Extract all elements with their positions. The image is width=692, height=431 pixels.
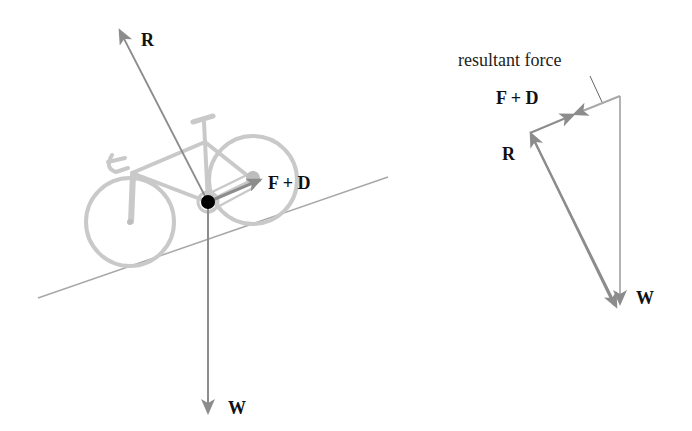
resultant-force-label: resultant force: [458, 50, 561, 70]
bicycle: [86, 116, 297, 266]
saddle: [193, 116, 213, 122]
resultant-pointer-line: [590, 76, 602, 102]
handlebar: [108, 155, 128, 172]
forward-drag-label: F + D: [268, 173, 311, 193]
seatpost: [204, 122, 205, 142]
reaction-label: R: [141, 30, 155, 50]
triangle-reaction-arrow-tail: [531, 134, 616, 306]
triangle-forward-drag-arrow: [530, 115, 573, 133]
weight-label: W: [228, 398, 246, 418]
center-of-mass-dot: [201, 195, 215, 209]
fork: [132, 175, 134, 222]
triangle-resultant-arrow: [575, 96, 620, 114]
triangle-weight-label: W: [636, 288, 654, 308]
triangle-reaction-label: R: [502, 144, 516, 164]
triangle-forward-drag-label: F + D: [496, 88, 539, 108]
force-diagram: R F + D W resultant force F + D R W: [0, 0, 692, 431]
